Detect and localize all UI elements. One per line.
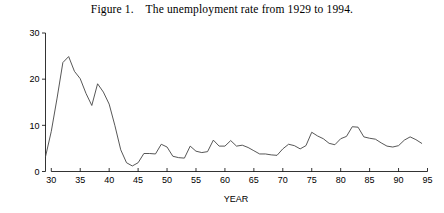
x-tick-label: 40 (104, 175, 114, 185)
unemployment-rate-line (46, 57, 422, 166)
y-axis: 0102030 (29, 28, 45, 177)
y-tick-label: 30 (29, 28, 39, 38)
x-axis: 3035404550556065707580859095 (46, 168, 432, 185)
x-tick-label: 60 (220, 175, 230, 185)
x-tick-label: 95 (422, 175, 432, 185)
y-tick-label: 20 (29, 74, 39, 84)
figure-page: Figure 1. The unemployment rate from 192… (0, 0, 444, 213)
x-tick-label: 75 (307, 175, 317, 185)
unemployment-line-chart: 0102030 3035404550556065707580859095 YEA… (0, 0, 444, 213)
x-tick-label: 45 (133, 175, 143, 185)
x-tick-label: 35 (75, 175, 85, 185)
y-tick-label: 10 (29, 121, 39, 131)
x-axis-title: YEAR (224, 194, 249, 204)
x-tick-label: 65 (249, 175, 259, 185)
chart-plot-area: 0102030 3035404550556065707580859095 YEA… (0, 0, 444, 213)
x-tick-label: 90 (394, 175, 404, 185)
data-series-group (46, 57, 422, 166)
x-tick-label: 50 (162, 175, 172, 185)
x-tick-label: 80 (336, 175, 346, 185)
x-tick-label: 85 (365, 175, 375, 185)
x-tick-label: 30 (46, 175, 56, 185)
y-tick-label: 0 (34, 167, 39, 177)
x-tick-label: 70 (278, 175, 288, 185)
x-tick-label: 55 (191, 175, 201, 185)
